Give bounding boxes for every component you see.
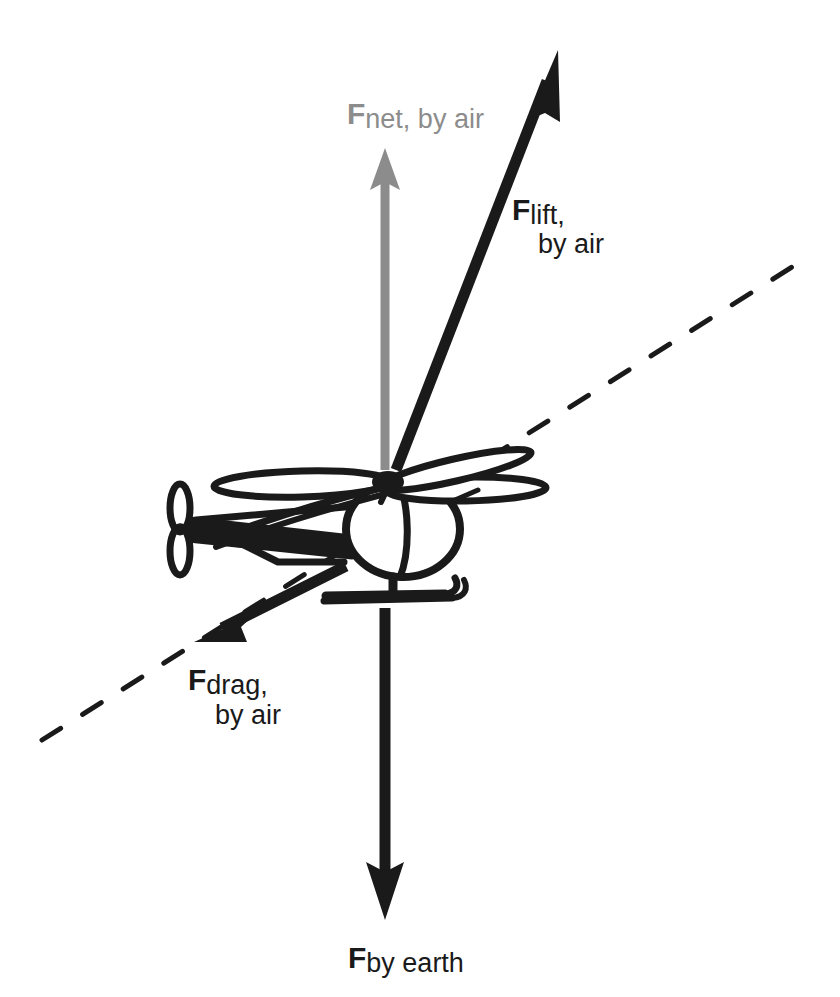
diagram-canvas: Fnet, by air Flift, by air Fdrag, by air… [0, 0, 840, 997]
lift-label-subscript-1: lift, [530, 200, 565, 230]
drag-label-subscript-1: drag, [206, 670, 268, 700]
net-force-label: Fnet, by air [347, 97, 484, 134]
weight-label: Fby earth [348, 941, 464, 978]
lift-label-symbol: F [512, 193, 530, 226]
net-force-label-subscript: net, by air [365, 104, 484, 134]
free-body-diagram: Fnet, by air Flift, by air Fdrag, by air… [0, 0, 840, 997]
helicopter-tail-rotor [170, 484, 196, 575]
lift-label-subscript-2: by air [538, 229, 604, 259]
weight-label-symbol: F [348, 941, 366, 974]
lift-label: Flift, by air [512, 193, 604, 259]
weight-vector [366, 608, 404, 920]
drag-label: Fdrag, by air [188, 663, 281, 730]
weight-label-subscript: by earth [366, 948, 464, 978]
drag-label-symbol: F [188, 663, 206, 696]
net-force-label-symbol: F [347, 97, 365, 130]
svg-text:Flift,: Flift, [512, 193, 565, 230]
net-force-vector [370, 148, 400, 470]
svg-text:Fnet, by air: Fnet, by air [347, 97, 484, 134]
svg-text:Fby earth: Fby earth [348, 941, 464, 978]
helicopter-illustration [170, 442, 546, 601]
svg-text:Fdrag,: Fdrag, [188, 663, 268, 700]
drag-label-subscript-2: by air [215, 700, 281, 730]
helicopter-landing-skid [324, 577, 466, 601]
